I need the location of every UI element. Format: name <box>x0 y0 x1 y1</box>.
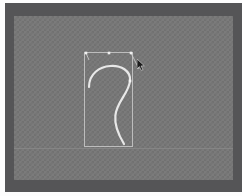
node-handle-top-right[interactable] <box>130 52 133 55</box>
editor-window <box>0 0 242 196</box>
node-handle-top-left[interactable] <box>85 52 88 55</box>
node-handle-top-mid[interactable] <box>108 52 111 55</box>
editor-frame <box>5 3 242 192</box>
drawing-canvas[interactable] <box>14 16 233 180</box>
frame-top-shade <box>5 3 242 16</box>
node-handle-curve-end[interactable] <box>129 80 132 83</box>
bezier-curve-path[interactable] <box>89 66 130 144</box>
frame-bottom-shade <box>5 180 242 192</box>
artwork-layer <box>14 16 233 180</box>
frame-left-shade <box>5 3 14 192</box>
frame-right-shade <box>233 3 242 192</box>
